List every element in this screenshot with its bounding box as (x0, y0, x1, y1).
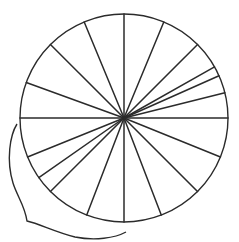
spoke-17 (124, 118, 198, 192)
spoke-8 (50, 44, 124, 118)
spoke-18 (124, 118, 220, 157)
spokes-group (20, 14, 228, 222)
spoke-7 (84, 22, 124, 118)
spoke-13 (50, 118, 124, 192)
spoke-9 (26, 82, 124, 118)
spoke-3 (124, 67, 215, 118)
spoke-4 (124, 44, 198, 118)
sector-circle-diagram (0, 0, 239, 242)
spoke-14 (87, 118, 124, 215)
spoke-16 (124, 118, 161, 215)
spoke-1 (124, 93, 225, 118)
